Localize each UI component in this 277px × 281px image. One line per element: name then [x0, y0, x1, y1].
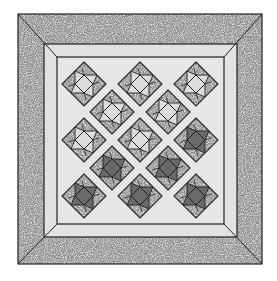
quilt-blocks: [62, 62, 218, 218]
quilt-illustration: [0, 0, 277, 281]
